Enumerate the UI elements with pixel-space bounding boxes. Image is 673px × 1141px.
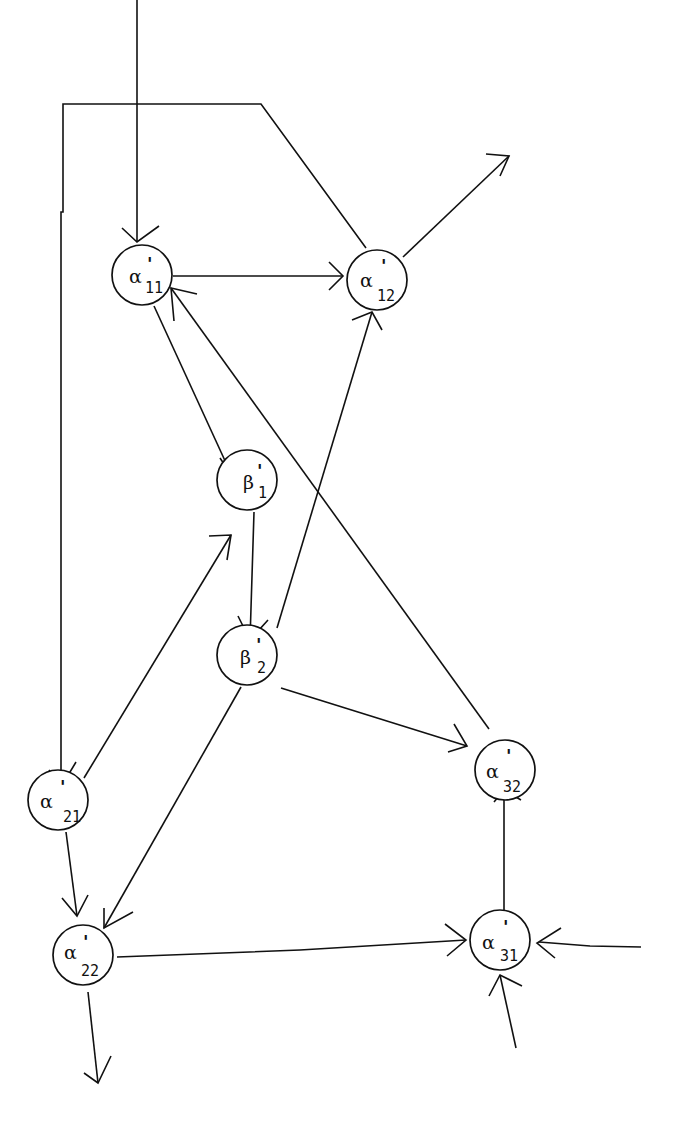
diagram-canvas: α ' 11 α ' 12 β ' 1 β ' 2 α ' 32 — [0, 0, 673, 1141]
edge-external-to-a11 — [122, 0, 159, 242]
svg-text:': ' — [256, 634, 262, 655]
edge-a11-to-b1 — [154, 306, 234, 476]
svg-text:': ' — [60, 776, 66, 797]
edge-b2-to-a22 — [104, 687, 241, 928]
svg-text:12: 12 — [377, 287, 395, 305]
edge-a11-to-a12 — [173, 262, 343, 290]
svg-text:α: α — [360, 269, 373, 291]
node-alpha-32[interactable]: α ' 32 — [475, 740, 535, 800]
edge-a31-to-a32 — [494, 790, 521, 910]
edge-b2-to-a12 — [277, 312, 382, 628]
svg-text:': ' — [257, 460, 263, 481]
svg-text:α: α — [482, 931, 495, 953]
svg-text:2: 2 — [257, 659, 266, 677]
edge-a12-to-a21 — [49, 104, 366, 787]
edge-a12-to-external — [403, 154, 509, 257]
edge-external-bottom-to-a31 — [489, 975, 522, 1048]
edges — [49, 0, 641, 1083]
svg-text:11: 11 — [145, 279, 163, 297]
svg-text:31: 31 — [500, 947, 518, 965]
svg-text:1: 1 — [258, 484, 267, 502]
node-alpha-22[interactable]: α ' 22 — [53, 925, 113, 985]
svg-text:': ' — [83, 931, 89, 952]
svg-text:α: α — [486, 760, 499, 782]
svg-text:22: 22 — [81, 962, 99, 980]
edge-b2-to-a32 — [281, 688, 467, 752]
svg-text:32: 32 — [503, 778, 521, 796]
node-alpha-31[interactable]: α ' 31 — [470, 910, 530, 970]
node-beta-1[interactable]: β ' 1 — [217, 450, 277, 510]
svg-text:β: β — [240, 646, 251, 668]
svg-text:β: β — [243, 471, 254, 493]
node-beta-2[interactable]: β ' 2 — [217, 625, 277, 685]
edge-b1-to-b2 — [238, 512, 268, 640]
svg-text:': ' — [147, 253, 153, 274]
edge-external-right-to-a31 — [537, 928, 641, 958]
svg-text:': ' — [506, 745, 512, 766]
edge-a21-to-a22 — [62, 832, 88, 916]
svg-text:α: α — [40, 790, 53, 812]
svg-text:': ' — [381, 255, 387, 276]
svg-text:α: α — [129, 265, 142, 287]
svg-text:21: 21 — [63, 808, 81, 826]
edge-a22-to-external-bottom — [84, 992, 111, 1083]
node-alpha-21[interactable]: α ' 21 — [28, 770, 88, 830]
node-alpha-11[interactable]: α ' 11 — [112, 245, 172, 305]
svg-text:α: α — [64, 941, 77, 963]
edge-a22-to-a31 — [117, 924, 466, 957]
edge-a21-to-b1 — [84, 535, 231, 778]
node-alpha-12[interactable]: α ' 12 — [347, 250, 407, 310]
svg-text:': ' — [503, 916, 509, 937]
